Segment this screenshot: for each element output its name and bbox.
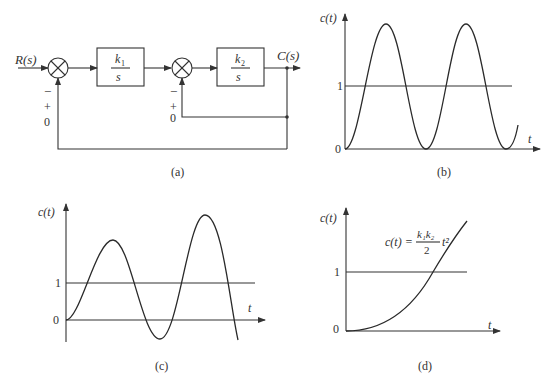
y-tick-1: 1 xyxy=(55,276,61,290)
chart-c: c(t) 1 0 t (c) xyxy=(38,204,265,373)
caption-c: (c) xyxy=(155,359,168,373)
y-tick-0: 0 xyxy=(335,142,341,156)
y-tick-1: 1 xyxy=(334,265,340,279)
output-label: C(s) xyxy=(277,48,299,63)
sum1-plus-sign: + xyxy=(44,100,51,114)
y-tick-0: 0 xyxy=(53,313,59,327)
sum2-zero: 0 xyxy=(170,111,176,125)
svg-text:2: 2 xyxy=(241,59,245,68)
caption-d: (d) xyxy=(418,359,432,373)
svg-text:s: s xyxy=(116,70,121,84)
formula-annotation: c(t) = k₁k₂ 2 t² xyxy=(385,228,449,256)
block-diagram: R(s) − + 0 k 1 s − + 0 xyxy=(14,48,300,179)
chart-b: c(t) 1 0 t (b) xyxy=(320,11,540,179)
y-tick-1: 1 xyxy=(337,79,343,93)
caption-b: (b) xyxy=(437,165,451,179)
svg-text:t²: t² xyxy=(442,235,449,249)
sum1-zero: 0 xyxy=(44,115,50,129)
sum2-minus-sign: − xyxy=(170,84,177,99)
response-curve xyxy=(66,215,238,340)
y-axis-label: c(t) xyxy=(320,211,337,225)
x-axis-label: t xyxy=(248,301,252,315)
summing-junction-2 xyxy=(172,58,192,78)
svg-text:1: 1 xyxy=(121,59,125,68)
svg-text:2: 2 xyxy=(424,244,430,256)
summing-junction-1 xyxy=(48,58,68,78)
block-k2-over-s: k 2 s xyxy=(217,48,264,86)
block-k1-over-s: k 1 s xyxy=(97,48,144,86)
sum1-minus-sign: − xyxy=(44,84,51,99)
x-axis-label: t xyxy=(488,318,492,332)
svg-text:k₁k₂: k₁k₂ xyxy=(417,228,435,240)
input-label: R(s) xyxy=(14,52,37,67)
inner-feedback-path xyxy=(182,78,287,117)
chart-d: c(t) 1 0 t c(t) = k₁k₂ 2 t² (d) xyxy=(320,208,500,373)
caption-a: (a) xyxy=(171,165,184,179)
svg-text:c(t) =: c(t) = xyxy=(385,235,413,249)
svg-text:s: s xyxy=(236,70,241,84)
y-axis-label: c(t) xyxy=(320,11,337,25)
y-axis-label: c(t) xyxy=(38,205,55,219)
y-tick-0: 0 xyxy=(333,322,339,336)
x-axis-label: t xyxy=(528,132,532,146)
